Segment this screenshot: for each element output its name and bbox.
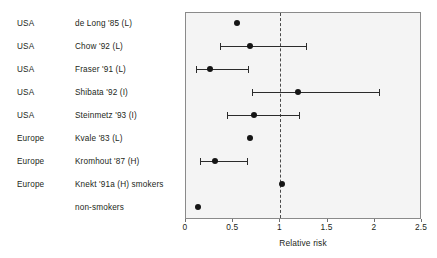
ci-cap-upper: [306, 43, 307, 50]
ci-cap-lower: [200, 158, 201, 165]
point-estimate-marker: [251, 112, 257, 118]
study-label-row: non-smokers: [0, 201, 180, 215]
study-name-label: Knekt '91a (H) smokers: [75, 178, 164, 192]
study-label-row: EuropeKromhout '87 (H): [0, 155, 180, 169]
ci-cap-upper: [379, 89, 380, 96]
point-estimate-marker: [195, 204, 201, 210]
region-label: Europe: [17, 155, 44, 169]
data-row: [186, 201, 420, 213]
forest-plot-figure: USAde Long '85 (L)USAChow '92 (L)USAFras…: [0, 0, 437, 258]
x-axis-tick-label: 2.5: [406, 222, 436, 232]
study-label-row: USAShibata '92 (I): [0, 86, 180, 100]
point-estimate-marker: [247, 43, 253, 49]
x-axis-tick-label: 0.5: [217, 222, 247, 232]
study-name-label: de Long '85 (L): [75, 17, 132, 31]
region-label: USA: [17, 86, 34, 100]
x-axis-tick-label: 1.5: [312, 222, 342, 232]
confidence-interval-bar: [252, 92, 378, 93]
confidence-interval-bar: [220, 46, 306, 47]
data-row: [186, 86, 420, 98]
confidence-interval-bar: [200, 161, 247, 162]
study-label-row: USAFraser '91 (L): [0, 63, 180, 77]
data-row: [186, 155, 420, 167]
study-label-row: USAChow '92 (L): [0, 40, 180, 54]
point-estimate-marker: [295, 89, 301, 95]
point-estimate-marker: [279, 181, 285, 187]
x-axis-tick-label: 0: [170, 222, 200, 232]
point-estimate-marker: [247, 135, 253, 141]
data-row: [186, 109, 420, 121]
data-row: [186, 63, 420, 75]
study-name-label: Steinmetz '93 (I): [75, 109, 137, 123]
x-axis-title: Relative risk: [185, 238, 421, 248]
ci-cap-lower: [220, 43, 221, 50]
region-label: USA: [17, 17, 34, 31]
data-row: [186, 132, 420, 144]
study-name-label: Kromhout '87 (H): [75, 155, 139, 169]
confidence-interval-bar: [227, 115, 300, 116]
x-axis: Relative risk 00.511.522.5: [185, 219, 421, 257]
data-row: [186, 40, 420, 52]
study-label-table: USAde Long '85 (L)USAChow '92 (L)USAFras…: [0, 0, 180, 258]
study-name-label: non-smokers: [75, 201, 124, 215]
ci-cap-upper: [248, 66, 249, 73]
region-label: Europe: [17, 178, 44, 192]
point-estimate-marker: [234, 20, 240, 26]
plot-panel: [185, 12, 421, 219]
point-estimate-marker: [207, 66, 213, 72]
ci-cap-upper: [299, 112, 300, 119]
study-label-row: USAde Long '85 (L): [0, 17, 180, 31]
region-label: USA: [17, 40, 34, 54]
ci-cap-lower: [252, 89, 253, 96]
study-label-row: EuropeKvale '83 (L): [0, 132, 180, 146]
ci-cap-lower: [196, 66, 197, 73]
study-label-row: EuropeKnekt '91a (H) smokers: [0, 178, 180, 192]
region-label: USA: [17, 63, 34, 77]
data-row: [186, 178, 420, 190]
study-label-row: USASteinmetz '93 (I): [0, 109, 180, 123]
data-row: [186, 17, 420, 29]
study-name-label: Kvale '83 (L): [75, 132, 123, 146]
study-name-label: Chow '92 (L): [75, 40, 123, 54]
ci-cap-upper: [247, 158, 248, 165]
plot-inner: [186, 13, 420, 218]
x-axis-tick-label: 1: [264, 222, 294, 232]
x-axis-tick-label: 2: [359, 222, 389, 232]
region-label: Europe: [17, 132, 44, 146]
point-estimate-marker: [212, 158, 218, 164]
study-name-label: Shibata '92 (I): [75, 86, 128, 100]
study-name-label: Fraser '91 (L): [75, 63, 126, 77]
ci-cap-lower: [227, 112, 228, 119]
confidence-interval-bar: [196, 69, 248, 70]
region-label: USA: [17, 109, 34, 123]
